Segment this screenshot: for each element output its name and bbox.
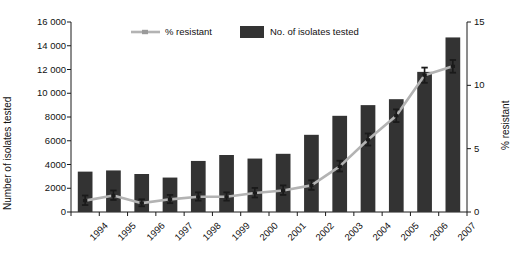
data-point-2005: [394, 114, 398, 117]
bar-1998: [191, 161, 206, 212]
right-axis-title: % resistant: [500, 101, 511, 150]
left-axis-tick-label: 16 000: [14, 16, 66, 27]
data-point-1997: [168, 198, 172, 201]
bar-1994: [78, 172, 93, 212]
data-point-2004: [366, 138, 370, 141]
data-point-1995: [111, 194, 115, 197]
legend-bar-swatch: [240, 26, 264, 38]
right-axis-tick-label: 0: [474, 206, 494, 217]
legend-line-point: [142, 30, 148, 34]
data-point-1998: [196, 195, 200, 198]
bar-2006: [417, 72, 432, 212]
right-axis-tick-label: 15: [474, 16, 494, 27]
chart-figure: 0200040006000800010 00012 00014 00016 00…: [0, 0, 526, 265]
bar-2000: [248, 159, 263, 212]
data-point-2006: [422, 74, 426, 77]
legend-label-percent-resistant: % resistant: [165, 26, 212, 37]
left-axis-tick-label: 12 000: [14, 64, 66, 75]
bar-2002: [304, 135, 319, 212]
left-axis-tick-label: 2000: [14, 182, 66, 193]
left-axis-tick-label: 0: [14, 206, 66, 217]
right-axis-tick-label: 10: [474, 79, 494, 90]
data-point-2002: [309, 184, 313, 187]
left-axis-tick-label: 10 000: [14, 87, 66, 98]
left-axis-title: Number of isolates tested: [2, 194, 13, 210]
bar-1999: [219, 155, 234, 212]
left-axis-tick-label: 4000: [14, 159, 66, 170]
legend-label-isolates-tested: No. of isolates tested: [270, 26, 359, 37]
left-axis-tick-label: 8000: [14, 111, 66, 122]
bar-2001: [276, 154, 291, 212]
data-point-1999: [224, 195, 228, 198]
left-axis-tick-label: 6000: [14, 135, 66, 146]
data-point-1994: [83, 199, 87, 202]
right-axis-tick-label: 5: [474, 143, 494, 154]
data-point-2007: [451, 65, 455, 68]
bar-2004: [361, 105, 376, 212]
data-point-1996: [140, 202, 144, 205]
data-point-2000: [253, 191, 257, 194]
data-point-2001: [281, 189, 285, 192]
data-point-2003: [338, 165, 342, 168]
left-axis-tick-label: 14 000: [14, 40, 66, 51]
